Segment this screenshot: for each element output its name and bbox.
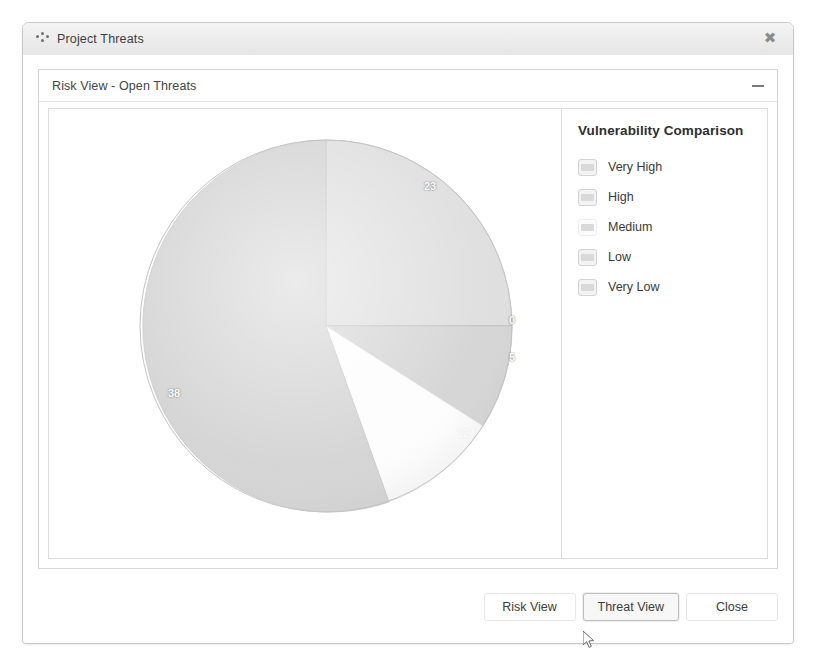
legend-item-very-low[interactable]: Very Low: [578, 272, 767, 302]
threat-view-button[interactable]: Threat View: [583, 593, 679, 621]
risk-view-panel: Risk View - Open Threats: [38, 69, 778, 569]
close-icon[interactable]: ✖: [761, 30, 779, 46]
legend-item-label: Medium: [608, 220, 652, 234]
legend-item-label: Very Low: [608, 280, 659, 294]
legend-swatch-icon: [578, 279, 597, 296]
project-threats-window: Project Threats ✖ Risk View - Open Threa…: [22, 22, 794, 644]
risk-view-button[interactable]: Risk View: [484, 593, 576, 621]
legend-item-high[interactable]: High: [578, 182, 767, 212]
legend-swatch-icon: [578, 219, 597, 236]
legend-item-very-high[interactable]: Very High: [578, 152, 767, 182]
window-body: Risk View - Open Threats: [23, 55, 793, 643]
legend-swatch-icon: [578, 249, 597, 266]
close-button[interactable]: Close: [686, 593, 778, 621]
app-dots-icon: [36, 32, 50, 46]
legend-item-label: Very High: [608, 160, 662, 174]
panel-title: Risk View - Open Threats: [52, 79, 196, 93]
legend-panel: Vulnerability Comparison Very High High …: [561, 109, 767, 558]
pie-chart-svg: [127, 127, 525, 525]
pie-chart: 23 0 5 12 38: [127, 127, 525, 525]
dialog-footer: Risk View Threat View Close: [38, 585, 778, 629]
legend-item-label: Low: [608, 250, 631, 264]
legend-item-medium[interactable]: Medium: [578, 212, 767, 242]
pie-chart-region: 23 0 5 12 38: [49, 109, 561, 558]
legend-swatch-icon: [578, 159, 597, 176]
screenshot-root: Project Threats ✖ Risk View - Open Threa…: [0, 0, 822, 669]
window-title: Project Threats: [57, 32, 144, 46]
pie-shading-overlay: [140, 140, 512, 512]
legend-item-low[interactable]: Low: [578, 242, 767, 272]
panel-header: Risk View - Open Threats: [39, 70, 777, 102]
window-titlebar[interactable]: Project Threats ✖: [23, 23, 793, 56]
legend-title: Vulnerability Comparison: [578, 123, 767, 138]
panel-content: 23 0 5 12 38 Vulnerability Comparison Ve…: [48, 108, 768, 559]
legend-swatch-icon: [578, 189, 597, 206]
legend-item-label: High: [608, 190, 634, 204]
minimize-icon[interactable]: [751, 79, 765, 92]
